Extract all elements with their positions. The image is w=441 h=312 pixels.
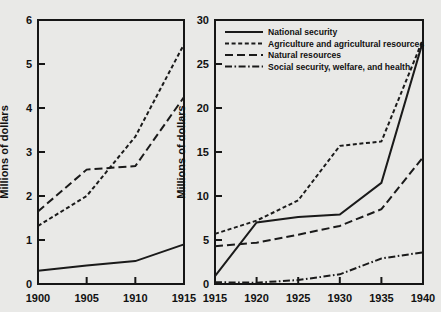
y-tick-label: 6	[26, 14, 32, 26]
legend-label: Natural resources	[268, 50, 341, 60]
y-tick-label: 25	[197, 58, 209, 70]
x-tick-label: 1940	[411, 292, 435, 304]
y-tick-label: 5	[203, 234, 209, 246]
chart-legend: National securityAgriculture and agricul…	[225, 27, 424, 72]
y-tick-label: 0	[203, 278, 209, 290]
y-tick-label: 3	[26, 146, 32, 158]
x-tick-label: 1910	[123, 292, 147, 304]
x-tick-label: 1915	[172, 292, 196, 304]
series-line-social-security-welfare-and-health	[215, 252, 423, 282]
legend-label: National security	[268, 27, 337, 37]
y-axis-title: Millions of dollars	[175, 105, 187, 199]
plot-frame	[38, 20, 184, 284]
series-line-agriculture-and-agricultural-resources	[38, 44, 184, 226]
x-tick-label: 1905	[74, 292, 98, 304]
y-tick-label: 30	[197, 14, 209, 26]
x-tick-label: 1935	[369, 292, 393, 304]
y-tick-label: 0	[26, 278, 32, 290]
chart-figure: 01234561900190519101915Millions of dolla…	[0, 0, 441, 312]
x-tick-label: 1920	[244, 292, 268, 304]
y-tick-label: 15	[197, 146, 209, 158]
y-axis-title: Millions of dollars	[0, 105, 10, 199]
series-line-natural-resources	[215, 157, 423, 246]
y-tick-label: 1	[26, 234, 32, 246]
series-line-national-security	[215, 41, 423, 276]
chart-panel-right: 051015202530191519201925193019351940Mill…	[175, 14, 435, 304]
y-tick-label: 5	[26, 58, 32, 70]
y-tick-label: 10	[197, 190, 209, 202]
y-tick-label: 4	[26, 102, 33, 114]
series-line-national-security	[38, 244, 184, 270]
x-tick-label: 1915	[203, 292, 227, 304]
chart-panel-left: 01234561900190519101915Millions of dolla…	[0, 14, 196, 304]
legend-label: Social security, welfare, and health	[268, 62, 410, 72]
series-line-natural-resources	[38, 97, 184, 211]
y-tick-label: 2	[26, 190, 32, 202]
x-tick-label: 1900	[26, 292, 50, 304]
figure-container: 01234561900190519101915Millions of dolla…	[0, 0, 441, 312]
legend-label: Agriculture and agricultural resources	[268, 39, 424, 49]
x-tick-label: 1925	[286, 292, 310, 304]
x-tick-label: 1930	[328, 292, 352, 304]
y-tick-label: 20	[197, 102, 209, 114]
